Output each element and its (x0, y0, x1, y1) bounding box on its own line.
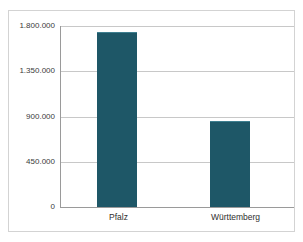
x-axis-line (60, 207, 294, 208)
x-axis-label-wuerttemberg: Württemberg (177, 212, 294, 223)
y-tick-label-0: 0 (51, 202, 55, 212)
y-tick-label-1350000: 1.350.000 (19, 66, 55, 76)
bar-pfalz (97, 32, 137, 207)
y-axis-line (60, 26, 61, 208)
gridline-450000 (60, 162, 294, 163)
y-tick-label-450000: 450.000 (26, 157, 55, 167)
bar-chart-figure: 1.800.000 1.350.000 900.000 450.000 0 Pf… (0, 0, 303, 242)
gridline-1800000 (60, 26, 294, 27)
plot-area (60, 26, 294, 207)
y-axis-tick-labels: 1.800.000 1.350.000 900.000 450.000 0 (0, 0, 55, 242)
y-tick-label-1800000: 1.800.000 (19, 21, 55, 31)
bar-wuerttemberg (210, 121, 250, 207)
x-axis-label-pfalz: Pfalz (60, 212, 177, 223)
gridline-1350000 (60, 71, 294, 72)
y-tick-label-900000: 900.000 (26, 112, 55, 122)
gridline-900000 (60, 117, 294, 118)
